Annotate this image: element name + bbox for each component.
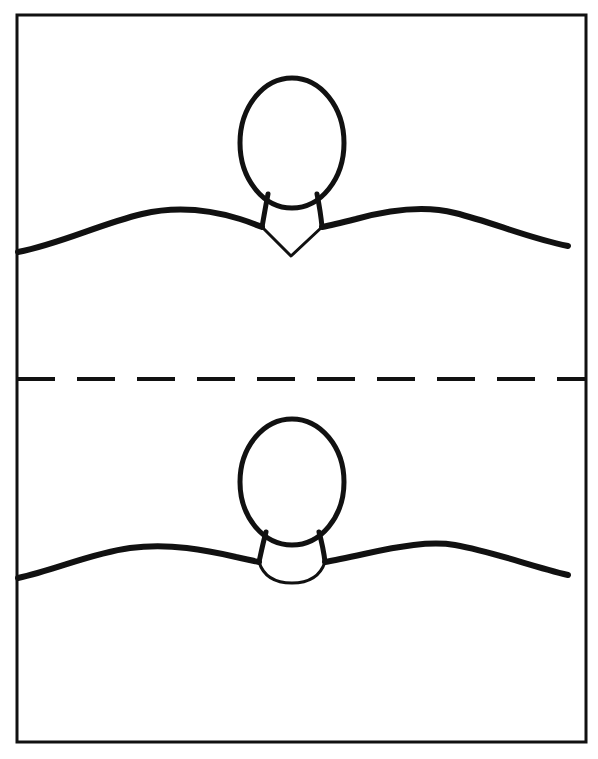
bottom-head-outline [240, 419, 344, 545]
line-art-canvas [0, 0, 598, 759]
page-root: Two-Panel Head and Shoulders Line Drawin… [0, 0, 598, 759]
top-head-outline [240, 78, 344, 208]
